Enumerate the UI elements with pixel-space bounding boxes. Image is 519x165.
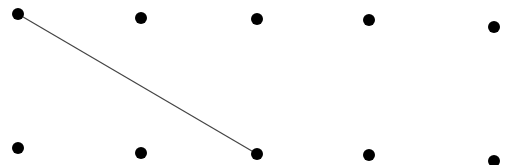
connector-line-t1-b3 [18, 14, 257, 154]
lines-layer [18, 14, 257, 154]
dots-layer [12, 8, 500, 165]
dot-t5 [488, 21, 500, 33]
dot-b4 [363, 149, 375, 161]
dot-b1 [12, 142, 24, 154]
dot-b5 [488, 155, 500, 165]
dot-t3 [251, 13, 263, 25]
dot-t4 [363, 14, 375, 26]
dot-b3 [251, 148, 263, 160]
dot-t2 [135, 12, 147, 24]
dot-b2 [135, 147, 147, 159]
dot-t1 [12, 8, 24, 20]
dot-diagram [0, 0, 519, 165]
